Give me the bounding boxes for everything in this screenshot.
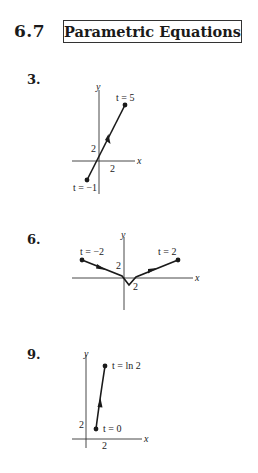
start-point <box>94 427 99 432</box>
curve <box>96 366 105 429</box>
y-axis-label: y <box>83 348 89 359</box>
start-label: t = 0 <box>103 423 121 434</box>
y-tick-label: 2 <box>79 419 84 430</box>
x-tick-label: 2 <box>102 440 107 451</box>
end-point <box>103 364 108 369</box>
graph-problem-9: y x 2 2 t = 0 t = ln 2 <box>0 0 258 473</box>
x-axis-label: x <box>143 433 149 444</box>
end-label: t = ln 2 <box>112 360 141 371</box>
